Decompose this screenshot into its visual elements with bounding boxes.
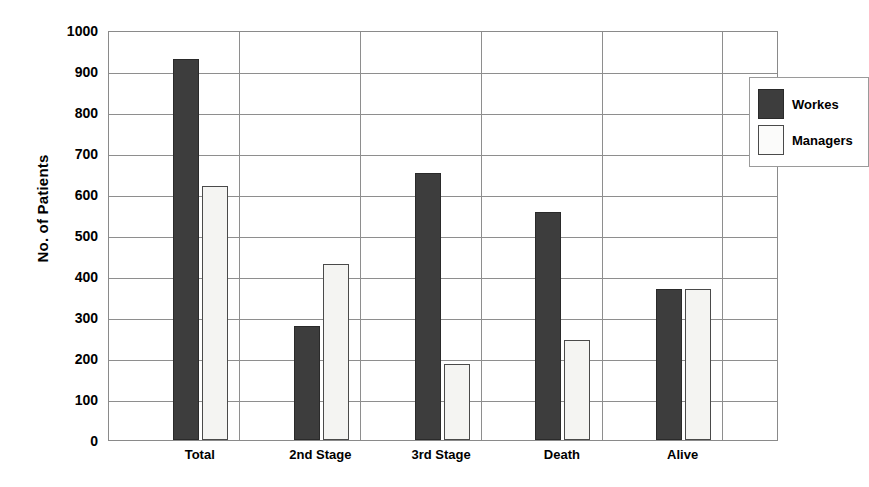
bar-managers-total: [202, 186, 228, 440]
y-axis-tick-label: 900: [38, 65, 98, 79]
bar-workes-3rd-stage: [415, 173, 441, 440]
bar-managers-3rd-stage: [444, 364, 470, 440]
y-axis-tick-label: 1000: [38, 24, 98, 38]
light-swatch-icon: [758, 125, 784, 155]
x-axis-tick-label: 3rd Stage: [371, 447, 511, 462]
legend-item-label: Managers: [792, 133, 853, 148]
x-axis-tick-label: Alive: [613, 447, 753, 462]
y-axis-tick-label: 100: [38, 393, 98, 407]
bar-workes-2nd-stage: [294, 326, 320, 440]
bar-managers-death: [564, 340, 590, 440]
category-separator-line: [239, 32, 240, 440]
bar-workes-death: [535, 212, 561, 440]
legend-item-workes: Workes: [758, 86, 868, 122]
x-axis-tick-label: Total: [130, 447, 270, 462]
chart-legend: Workes Managers: [749, 77, 869, 167]
bar-workes-alive: [656, 289, 682, 440]
x-axis-tick-label: 2nd Stage: [250, 447, 390, 462]
gridline: [109, 155, 777, 156]
y-axis-tick-label: 0: [38, 434, 98, 448]
legend-item-label: Workes: [792, 97, 839, 112]
bar-managers-alive: [685, 289, 711, 440]
category-separator-line: [602, 32, 603, 440]
legend-item-managers: Managers: [758, 122, 868, 158]
y-axis-title: No. of Patients: [34, 89, 51, 329]
bar-managers-2nd-stage: [323, 264, 349, 440]
y-axis-tick-label: 200: [38, 352, 98, 366]
y-axis-tick-label: 400: [38, 270, 98, 284]
x-axis-tick-label: Death: [492, 447, 632, 462]
y-axis-tick-label: 500: [38, 229, 98, 243]
plot-area: Workes Managers: [108, 31, 778, 441]
y-axis-tick-label: 800: [38, 106, 98, 120]
dark-swatch-icon: [758, 89, 784, 119]
y-axis-tick-label: 700: [38, 147, 98, 161]
y-axis-tick-label: 300: [38, 311, 98, 325]
y-axis-tick-label: 600: [38, 188, 98, 202]
category-separator-line: [360, 32, 361, 440]
category-separator-line: [722, 32, 723, 440]
gridline: [109, 114, 777, 115]
bar-workes-total: [173, 59, 199, 440]
category-separator-line: [481, 32, 482, 440]
gridline: [109, 73, 777, 74]
